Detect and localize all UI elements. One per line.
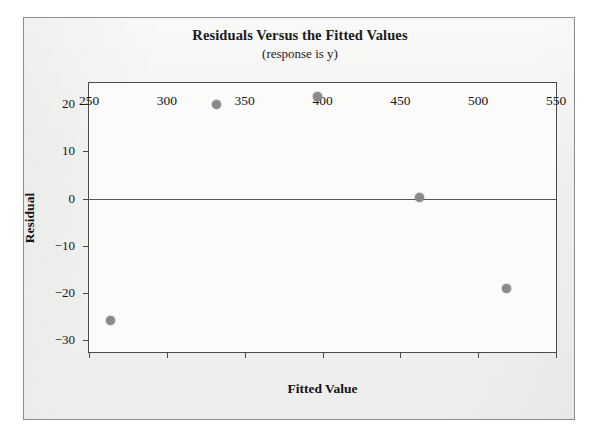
x-tick-mark [400, 352, 401, 358]
x-tick-mark [167, 352, 168, 358]
chart-title: Residuals Versus the Fitted Values [0, 27, 600, 44]
y-tick-label: 20 [62, 96, 75, 112]
x-tick-label: 550 [546, 93, 566, 109]
x-tick-label: 500 [468, 93, 488, 109]
figure-page: Residuals Versus the Fitted Values (resp… [0, 0, 600, 440]
x-axis-ticks: 250300350400450500550 [89, 83, 556, 352]
chart-subtitle: (response is y) [0, 46, 600, 62]
y-tick-label: 0 [69, 191, 76, 207]
data-point [415, 193, 424, 202]
data-point [502, 284, 511, 293]
x-axis-title: Fitted Value [88, 381, 557, 397]
y-axis-title: Residual [22, 193, 38, 243]
plot-area: 20100−10−20−30 250300350400450500550 [88, 82, 557, 353]
x-tick-label: 250 [79, 93, 99, 109]
y-tick-label: −20 [55, 285, 75, 301]
y-tick-label: −30 [55, 332, 75, 348]
x-tick-mark [478, 352, 479, 358]
data-point [313, 92, 322, 101]
data-point [212, 100, 221, 109]
y-tick-label: −10 [55, 238, 75, 254]
x-tick-mark [556, 352, 557, 358]
x-tick-mark [323, 352, 324, 358]
x-tick-mark [245, 352, 246, 358]
x-tick-mark [89, 352, 90, 358]
x-tick-label: 350 [235, 93, 255, 109]
y-tick-label: 10 [62, 143, 75, 159]
zero-reference-line [89, 199, 556, 200]
x-tick-label: 450 [390, 93, 410, 109]
x-tick-label: 300 [157, 93, 177, 109]
